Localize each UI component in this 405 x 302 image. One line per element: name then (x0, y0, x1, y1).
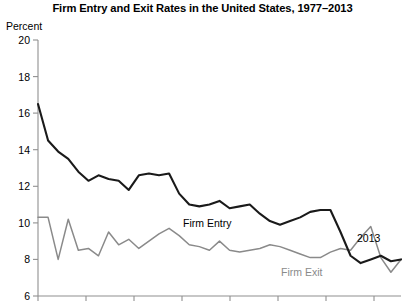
series-annotation-firm-entry: Firm Entry (183, 217, 231, 229)
plot-area (0, 0, 405, 302)
endpoint-annotation-2013: 2013 (357, 232, 380, 244)
series-line-firm-entry (38, 104, 401, 263)
series-annotation-firm-exit: Firm Exit (281, 266, 322, 278)
x-axis-ticks (38, 296, 374, 301)
y-axis-ticks (33, 40, 38, 296)
chart-container: Firm Entry and Exit Rates in the United … (0, 0, 405, 302)
